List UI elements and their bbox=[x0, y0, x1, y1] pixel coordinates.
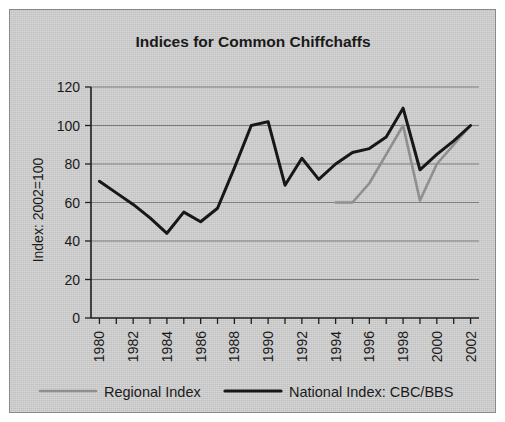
y-tick-label: 80 bbox=[64, 156, 80, 172]
x-tick-label: 1990 bbox=[260, 331, 276, 362]
x-tick-label: 1982 bbox=[125, 331, 141, 362]
legend-label: Regional Index bbox=[104, 384, 201, 400]
x-tick-label: 2002 bbox=[463, 331, 479, 362]
y-tick-label: 20 bbox=[64, 272, 80, 288]
x-tick-label: 2000 bbox=[429, 331, 445, 362]
y-tick-label: 60 bbox=[64, 195, 80, 211]
x-tick-label: 1998 bbox=[395, 331, 411, 362]
x-tick-label: 1996 bbox=[361, 331, 377, 362]
x-tick-label: 1994 bbox=[328, 331, 344, 362]
x-tick-label: 1984 bbox=[159, 331, 175, 362]
y-tick-label: 40 bbox=[64, 233, 80, 249]
chart-legend: Regional IndexNational Index: CBC/BBS bbox=[40, 384, 453, 400]
x-tick-label: 1988 bbox=[226, 331, 242, 362]
x-tick-label: 1992 bbox=[294, 331, 310, 362]
line-chart: Indices for Common Chiffchaffs Index: 20… bbox=[10, 10, 496, 413]
data-series-group bbox=[99, 108, 470, 233]
y-tick-labels: 020406080100120 bbox=[57, 79, 81, 326]
chart-figure: Indices for Common Chiffchaffs Index: 20… bbox=[0, 0, 505, 422]
x-tick-label: 1986 bbox=[193, 331, 209, 362]
x-tick-label: 1980 bbox=[91, 331, 107, 362]
chart-title: Indices for Common Chiffchaffs bbox=[135, 33, 370, 50]
x-tick-labels: 1980198219841986198819901992199419961998… bbox=[91, 331, 478, 362]
y-axis-title: Index: 2002=100 bbox=[30, 157, 46, 262]
x-tick-marks bbox=[99, 318, 470, 324]
y-tick-marks bbox=[85, 87, 91, 318]
y-tick-label: 120 bbox=[57, 79, 81, 95]
series-line bbox=[99, 108, 470, 233]
y-tick-label: 0 bbox=[72, 310, 80, 326]
chart-panel: Indices for Common Chiffchaffs Index: 20… bbox=[9, 9, 496, 413]
y-tick-label: 100 bbox=[57, 118, 81, 134]
legend-label: National Index: CBC/BBS bbox=[289, 384, 453, 400]
